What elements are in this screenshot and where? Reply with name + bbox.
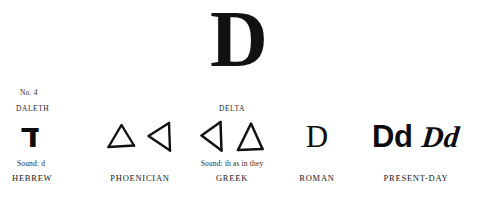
glyph-group-hebrew: ד (4, 116, 96, 156)
triangle-up-outline-icon (106, 122, 136, 150)
column-label-present-day: PRESENT-DAY (354, 173, 478, 183)
column-sound-greek: Sound: th as in they (184, 159, 280, 168)
column-label-hebrew: HEBREW (4, 173, 96, 183)
print-letter-dd-icon: Dd (372, 120, 412, 153)
roman-capital-d-icon: D (306, 120, 328, 153)
glyph-group-present-day: Dd Dd (354, 116, 478, 156)
column-hebrew: DALETH ד Sound: d HEBREW (4, 104, 96, 196)
column-title-daleth: DALETH (4, 104, 96, 113)
alphabet-evolution-row: DALETH ד Sound: d HEBREW PHOENICIAN DELT… (0, 104, 478, 196)
triangle-left-outline-icon (146, 121, 174, 152)
glyph-group-phoenician (96, 116, 184, 156)
hebrew-letter-dalet-icon: ד (20, 118, 40, 152)
triangle-left-outline-icon (199, 120, 225, 152)
column-greek: DELTA Sound: th as in they GREEK (184, 104, 280, 196)
figure-number: No. 4 (20, 88, 38, 97)
column-label-roman: ROMAN (280, 173, 354, 183)
column-label-phoenician: PHOENICIAN (96, 173, 184, 183)
glyph-group-roman: D (280, 116, 354, 156)
column-label-greek: GREEK (184, 173, 280, 183)
script-letter-dd-icon: Dd (421, 120, 462, 153)
column-present-day: Dd Dd PRESENT-DAY (354, 104, 478, 196)
triangle-up-outline-icon (235, 121, 265, 152)
column-roman: D ROMAN (280, 104, 354, 196)
column-sound-hebrew: Sound: d (4, 159, 96, 168)
column-title-delta: DELTA (184, 104, 280, 113)
hero-letter-d: D (0, 0, 478, 82)
column-phoenician: PHOENICIAN (96, 104, 184, 196)
glyph-group-greek (184, 116, 280, 156)
